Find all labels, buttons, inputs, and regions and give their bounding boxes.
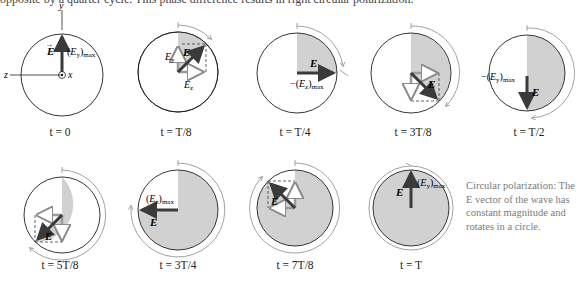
panel-t-eighth: E Ey Ez xyxy=(138,22,218,112)
panel-t-five-eighths: E xyxy=(24,167,106,260)
panel-t-quarter: E −(Ez)max xyxy=(257,23,348,113)
panel-t-seven-eighths: E xyxy=(250,160,340,253)
z-axis-label: z xyxy=(3,69,8,80)
time-label-t-half: t = T/2 xyxy=(513,126,544,138)
time-label-t-three-quarters: t = 3T/4 xyxy=(159,259,196,271)
svg-text:E: E xyxy=(427,78,435,90)
panel-t-period: E (Ey)max xyxy=(369,163,453,250)
svg-text:E: E xyxy=(309,57,317,69)
panel-t-half: E −(Ey)max xyxy=(481,25,575,118)
time-label-t0: t = 0 xyxy=(49,126,70,138)
svg-text:E: E xyxy=(149,216,157,228)
time-label-t-five-eighths: t = 5T/8 xyxy=(41,259,78,271)
svg-text:E: E xyxy=(182,46,190,58)
y-axis-label: y xyxy=(58,0,64,11)
panel-t-three-quarters: E (Ez)max xyxy=(131,160,225,257)
time-label-t-period: t = T xyxy=(400,259,422,271)
time-label-t-quarter: t = T/4 xyxy=(279,126,310,138)
polarization-diagram: y z x E → (Ey)max E Ey Ez E −(Ez)max xyxy=(0,0,581,282)
figure-caption: Circular polarization: The E vector of t… xyxy=(466,179,578,233)
panel-t-three-eighths: E xyxy=(371,23,460,113)
time-label-t-eighth: t = T/8 xyxy=(160,126,191,138)
svg-text:E: E xyxy=(531,86,539,98)
time-label-t-seven-eighths: t = 7T/8 xyxy=(276,259,313,271)
svg-text:→: → xyxy=(45,40,53,49)
time-label-t-three-eighths: t = 3T/8 xyxy=(394,126,431,138)
svg-text:E: E xyxy=(395,186,403,198)
svg-text:E: E xyxy=(44,230,52,242)
svg-text:E: E xyxy=(270,195,278,207)
x-axis-label: x xyxy=(67,69,73,80)
panel-t0: y z x E → (Ey)max xyxy=(3,0,103,116)
